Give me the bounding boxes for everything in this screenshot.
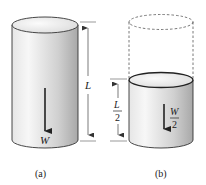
half-length-dimension	[110, 79, 127, 141]
length-label: L	[84, 79, 91, 91]
half-weight-denominator: 2	[172, 119, 177, 130]
caption-a: (a)	[35, 168, 46, 180]
cylinder-diagram: W L (a) W 2	[0, 0, 206, 185]
caption-b: (b)	[155, 168, 167, 180]
panel-a: W L (a)	[12, 17, 96, 180]
half-length-numerator: L	[113, 99, 120, 110]
half-length-label: L 2	[113, 99, 122, 123]
panel-b: W 2 L 2 (b)	[110, 15, 193, 181]
removed-half-outline	[129, 15, 193, 80]
half-cylinder	[129, 73, 193, 149]
half-length-denominator: 2	[115, 112, 120, 123]
weight-label: W	[40, 134, 50, 146]
